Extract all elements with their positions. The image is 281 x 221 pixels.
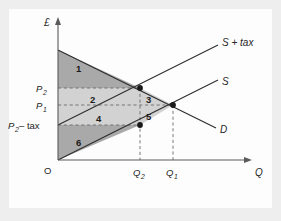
price-tick-p1-subscript: 1 — [43, 106, 47, 113]
region-6-shape — [58, 125, 140, 160]
point-producer-net-price — [137, 122, 143, 128]
y-axis-arrow — [55, 17, 61, 25]
point-original-equilibrium — [170, 102, 176, 108]
origin-label: O — [44, 165, 51, 176]
demand-label: D — [220, 124, 227, 135]
region-3-shape — [140, 88, 173, 105]
price-tick-p2: P 2 — [36, 83, 47, 96]
price-tick-p2-subscript: 2 — [42, 89, 47, 96]
region-5-label: 5 — [146, 111, 152, 122]
quantity-tick-q2-base: Q — [133, 167, 141, 178]
supply-demand-tax-chart: £ Q O S + tax S D P 2 P 1 P 2 – tax Q 2 … — [0, 0, 281, 221]
region-5-shape — [140, 105, 173, 125]
supply-label: S — [222, 76, 229, 87]
supply-plus-tax-label: S + tax — [222, 37, 254, 48]
x-axis-label: Q — [255, 167, 263, 178]
y-axis-label: £ — [43, 17, 50, 28]
region-2-label: 2 — [90, 94, 95, 105]
price-tick-p2-minus-tax: P 2 – tax — [8, 120, 40, 133]
figure-root: £ Q O S + tax S D P 2 P 1 P 2 – tax Q 2 … — [0, 0, 281, 221]
price-tick-p1-base: P — [36, 100, 43, 111]
price-tick-p2-minus-tax-base: P — [8, 120, 15, 131]
region-1-label: 1 — [76, 63, 82, 74]
point-new-equilibrium — [137, 85, 143, 91]
x-axis-arrow — [244, 157, 252, 163]
quantity-tick-q2-subscript: 2 — [140, 173, 145, 180]
quantity-tick-q1: Q 1 — [166, 167, 178, 180]
quantity-tick-q2: Q 2 — [133, 167, 145, 180]
price-tick-p1: P 1 — [36, 100, 47, 113]
price-tick-p2-minus-tax-suffix: – tax — [19, 120, 40, 131]
region-6-label: 6 — [76, 137, 81, 148]
region-4-label: 4 — [96, 113, 102, 124]
quantity-tick-q1-subscript: 1 — [174, 173, 178, 180]
region-3-label: 3 — [146, 94, 151, 105]
quantity-tick-q1-base: Q — [166, 167, 174, 178]
price-tick-p2-base: P — [36, 83, 43, 94]
